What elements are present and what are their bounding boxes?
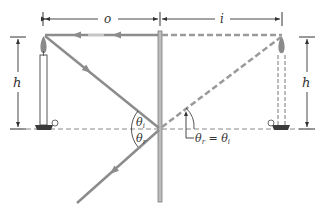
theta-i-label: θi xyxy=(136,116,145,130)
angle-equality-pointer xyxy=(184,111,194,138)
plane-mirror xyxy=(158,31,162,202)
reflected-ray xyxy=(77,130,159,203)
angle-arc-virtual xyxy=(186,108,194,129)
angle-equality-label: θr = θi xyxy=(195,132,230,146)
incident-ray xyxy=(45,36,159,128)
dimension-line-o-i xyxy=(43,12,282,26)
image-candle xyxy=(268,36,290,130)
image-distance-label: i xyxy=(220,12,224,26)
height-label-right: h xyxy=(302,75,310,90)
theta-r-label: θr xyxy=(136,132,147,146)
mirror-diagram: o i h h xyxy=(0,0,324,214)
horizontal-ray xyxy=(45,32,158,39)
object-distance-label: o xyxy=(104,12,111,26)
height-label-left: h xyxy=(13,75,21,90)
virtual-diagonal-ray xyxy=(162,37,281,127)
object-candle xyxy=(35,36,58,130)
